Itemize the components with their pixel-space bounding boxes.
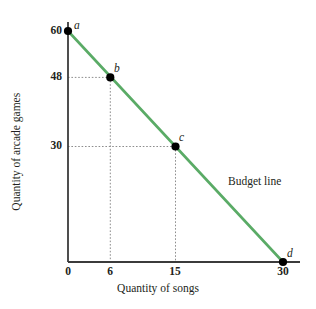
x-tick-label-30: 30 [271, 266, 295, 278]
data-point-a [64, 27, 72, 35]
point-label-c: c [179, 132, 184, 144]
point-label-b: b [114, 63, 120, 75]
y-axis-title: Quantity of arcade games [11, 72, 23, 232]
data-point-b [106, 73, 114, 81]
x-axis-title: Quantity of songs [0, 283, 316, 295]
budget-line-annotation: Budget line [228, 176, 281, 188]
y-tick-label-60: 60 [34, 25, 62, 37]
chart-figure: 60 48 30 0 6 15 30 a b c d Budget line Q… [0, 0, 316, 309]
point-label-d: d [287, 248, 293, 260]
x-tick-label-0: 0 [56, 266, 80, 278]
data-point-c [171, 142, 179, 150]
y-tick-label-30: 30 [34, 140, 62, 152]
y-tick-label-48: 48 [34, 71, 62, 83]
budget-line-plot [0, 0, 316, 309]
point-label-a: a [74, 20, 80, 32]
x-tick-label-6: 6 [98, 266, 122, 278]
x-tick-label-15: 15 [163, 266, 187, 278]
